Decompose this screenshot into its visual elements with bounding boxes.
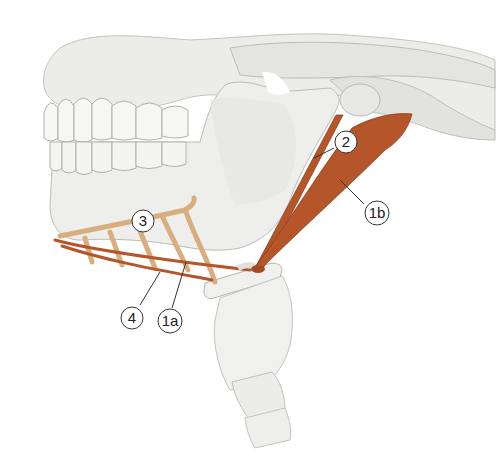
label-1b: 1b <box>365 201 389 225</box>
label-3: 3 <box>132 210 154 232</box>
label-2: 2 <box>335 131 357 153</box>
label-4-text: 4 <box>128 309 136 326</box>
anatomy-illustration: 2 1b 3 4 1a <box>0 0 499 470</box>
label-1a-text: 1a <box>162 312 179 329</box>
upper-teeth <box>44 98 188 142</box>
label-3-text: 3 <box>139 212 147 229</box>
mandibular-condyle <box>340 84 380 116</box>
label-1b-text: 1b <box>369 204 386 221</box>
label-4: 4 <box>121 307 143 329</box>
label-2-text: 2 <box>342 133 350 150</box>
hyoid-attachment <box>251 265 265 273</box>
label-1a: 1a <box>158 309 182 333</box>
